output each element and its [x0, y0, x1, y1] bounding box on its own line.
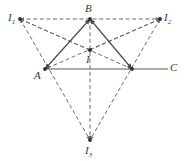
label-C: C	[170, 62, 177, 73]
label-I2: I2	[164, 12, 171, 26]
segment-A-B	[45, 19, 90, 69]
vertex-marker-A	[43, 67, 47, 71]
vertex-marker-C	[130, 67, 134, 71]
vertex-marker-incenter	[88, 48, 92, 52]
segment-I2-I3	[90, 19, 160, 140]
label-incenter: I	[86, 54, 90, 65]
label-I1: I1	[8, 12, 15, 26]
cevian-lines	[20, 19, 160, 140]
segment-I1-I3	[20, 19, 90, 140]
segment-I1-incenter	[20, 19, 90, 50]
vertex-marker-I1	[18, 17, 22, 21]
triangle-abc	[45, 19, 168, 69]
vertex-marker-I3	[88, 138, 92, 142]
label-I3: I3	[85, 145, 92, 159]
geometry-figure: I1 B I2 A I C I3	[0, 0, 186, 161]
segment-I2-incenter	[90, 19, 160, 50]
vertex-marker-B	[88, 17, 92, 21]
label-A: A	[34, 70, 41, 81]
vertex-marker-I2	[158, 17, 162, 21]
segment-B-C-vertex	[90, 19, 132, 69]
label-B: B	[85, 3, 92, 14]
figure-canvas	[0, 0, 186, 161]
